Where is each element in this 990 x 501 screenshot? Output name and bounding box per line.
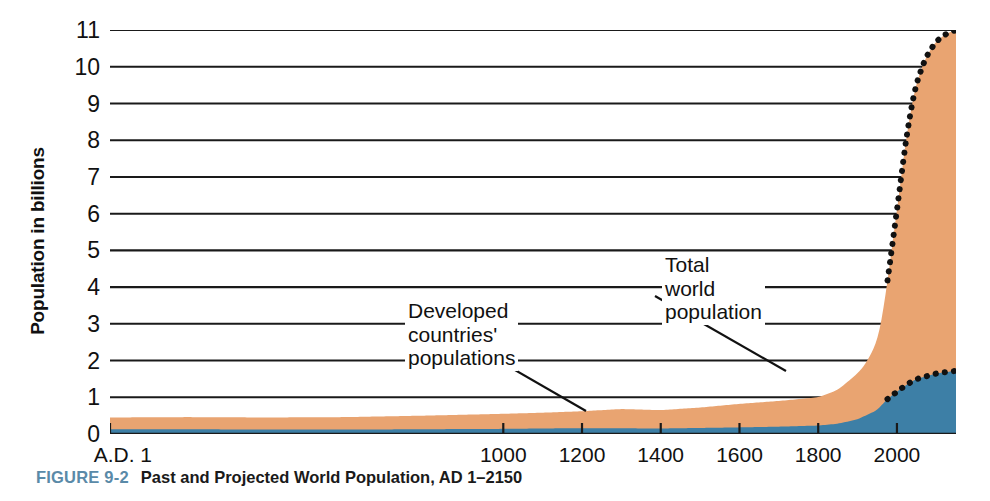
y-axis-title: Population in billions xyxy=(27,91,49,391)
x-tick-label-1400: 1400 xyxy=(637,443,684,467)
y-tick-label-10: 10 xyxy=(74,55,100,78)
y-tick-label-7: 7 xyxy=(87,166,100,189)
x-tick-label-1600: 1600 xyxy=(716,443,763,467)
y-tick-label-8: 8 xyxy=(87,129,100,152)
population-area-chart xyxy=(110,30,956,434)
y-tick-label-9: 9 xyxy=(87,92,100,115)
annotation-developed-countries: Developed countries' populations xyxy=(405,298,518,371)
plot-area: 11 10 9 8 7 6 5 4 3 2 1 0 A.D. 1 1000 12… xyxy=(110,30,956,434)
series-layer xyxy=(110,30,956,434)
x-tick-label-1000: 1000 xyxy=(480,443,527,467)
x-tick-label-1800: 1800 xyxy=(795,443,842,467)
y-tick-label-5: 5 xyxy=(87,239,100,262)
x-tick-label-ad1: A.D. 1 xyxy=(94,443,152,467)
y-tick-label-3: 3 xyxy=(87,312,100,335)
x-tick-label-2000: 2000 xyxy=(874,443,921,467)
figure-caption-text: Past and Projected World Population, AD … xyxy=(141,468,522,486)
y-tick-label-6: 6 xyxy=(87,202,100,225)
annotation-total-world-population: Total world population xyxy=(662,252,765,325)
figure-number: FIGURE 9-2 xyxy=(36,468,129,486)
total-world-population-band xyxy=(110,30,956,434)
y-tick-label-2: 2 xyxy=(87,349,100,372)
y-tick-label-11: 11 xyxy=(76,19,100,42)
gridlines xyxy=(110,30,956,397)
figure-container: Population in billions 11 10 9 8 7 6 5 4… xyxy=(0,0,990,501)
x-tick-label-1200: 1200 xyxy=(559,443,606,467)
y-tick-label-4: 4 xyxy=(87,276,100,299)
y-tick-label-1: 1 xyxy=(87,386,100,409)
figure-caption: FIGURE 9-2Past and Projected World Popul… xyxy=(36,468,522,487)
